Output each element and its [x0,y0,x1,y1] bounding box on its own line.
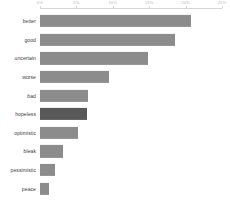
x-axis: 0%5%10%15%20%25% [40,0,222,12]
bar-peace[interactable] [40,183,49,195]
bar-track [40,164,222,176]
bar-hopeless[interactable] [40,108,87,120]
bar-category-label: optimistic [0,130,36,136]
bar-category-label: uncertain [0,55,36,61]
x-axis-tick-label: 10% [108,0,117,5]
x-axis-tick-label: 15% [145,0,154,5]
x-axis-tick-label: 5% [73,0,79,5]
bar-category-label: bleak [0,148,36,154]
bar-row: good [0,31,230,50]
x-axis-tick-label: 0% [37,0,43,5]
bar-pessimistic[interactable] [40,164,55,176]
bar-row: bleak [0,142,230,161]
bar-category-label: good [0,37,36,43]
bar-row: worse [0,68,230,87]
bar-track [40,15,222,27]
x-axis-line [40,8,222,9]
bar-category-label: hopeless [0,111,36,117]
bar-track [40,108,222,120]
bar-track [40,52,222,64]
bar-bleak[interactable] [40,145,63,157]
bar-track [40,71,222,83]
bar-worse[interactable] [40,71,109,83]
bar-row: peace [0,179,230,198]
bar-track [40,90,222,102]
x-axis-tick-mark [222,6,223,8]
bar-good[interactable] [40,34,175,46]
bar-track [40,145,222,157]
bar-row: hopeless [0,105,230,124]
bar-bad[interactable] [40,90,88,102]
x-axis-tick-label: 25% [218,0,227,5]
bar-optimistic[interactable] [40,127,78,139]
bar-category-label: bad [0,93,36,99]
bar-row: bad [0,86,230,105]
bar-row: uncertain [0,49,230,68]
bar-category-label: pessimistic [0,167,36,173]
bar-track [40,127,222,139]
bar-category-label: peace [0,186,36,192]
bar-better[interactable] [40,15,191,27]
bar-category-label: worse [0,74,36,80]
bar-track [40,183,222,195]
bar-row: optimistic [0,124,230,143]
bar-row: better [0,12,230,31]
bar-row: pessimistic [0,161,230,180]
plot-area: bettergooduncertainworsebadhopelessoptim… [0,12,230,204]
horizontal-bar-chart: 0%5%10%15%20%25% bettergooduncertainwors… [0,0,230,204]
bar-track [40,34,222,46]
bar-uncertain[interactable] [40,52,148,64]
bar-category-label: better [0,18,36,24]
x-axis-tick-label: 20% [181,0,190,5]
